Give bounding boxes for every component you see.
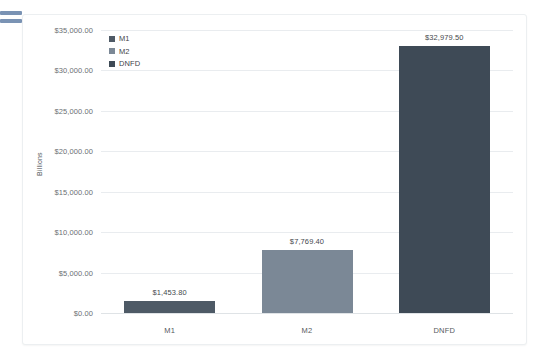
- menu-icon-bar-bottom: [0, 19, 22, 23]
- legend-label: M2: [119, 48, 130, 56]
- x-axis-tick-label: DNFD: [434, 326, 456, 335]
- x-axis-line: [101, 313, 513, 314]
- bar-value-label: $7,769.40: [290, 237, 324, 246]
- bar-group: $1,453.80M1: [124, 30, 215, 313]
- bar[interactable]: [399, 46, 490, 313]
- bar-group: $32,979.50DNFD: [399, 30, 490, 313]
- y-axis-tick-label: $30,000.00: [54, 66, 93, 75]
- x-axis-tick-label: M2: [302, 326, 313, 335]
- legend-item[interactable]: M2: [109, 48, 140, 56]
- bar-value-label: $32,979.50: [425, 33, 464, 42]
- y-axis-tick-label: $15,000.00: [54, 187, 93, 196]
- legend-label: DNFD: [119, 60, 140, 68]
- x-axis-tick-label: M1: [164, 326, 175, 335]
- legend-swatch-icon: [109, 48, 115, 54]
- bar[interactable]: [262, 250, 353, 313]
- bar-value-label: $1,453.80: [153, 288, 187, 297]
- hamburger-menu-icon[interactable]: [0, 11, 22, 26]
- plot-area: $35,000.00$30,000.00$25,000.00$20,000.00…: [101, 30, 513, 313]
- legend-swatch-icon: [109, 36, 115, 42]
- y-axis-tick-label: $20,000.00: [54, 147, 93, 156]
- menu-icon-bar-top: [0, 11, 22, 15]
- y-axis-tick-label: $25,000.00: [54, 106, 93, 115]
- bar[interactable]: [124, 301, 215, 313]
- y-axis-tick-label: $5,000.00: [59, 268, 93, 277]
- y-axis-tick-label: $0.00: [74, 309, 93, 318]
- bar-group: $7,769.40M2: [262, 30, 353, 313]
- y-axis-tick-label: $35,000.00: [54, 26, 93, 35]
- legend-item[interactable]: M1: [109, 35, 140, 43]
- legend-swatch-icon: [109, 61, 115, 67]
- y-axis-title: Billions: [36, 152, 43, 176]
- y-axis-tick-label: $10,000.00: [54, 228, 93, 237]
- bar-chart-card: Billions $35,000.00$30,000.00$25,000.00$…: [22, 14, 527, 345]
- chart-legend: M1M2DNFD: [109, 35, 140, 68]
- legend-label: M1: [119, 35, 130, 43]
- legend-item[interactable]: DNFD: [109, 60, 140, 68]
